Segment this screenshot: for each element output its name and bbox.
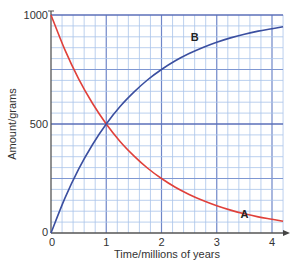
y-axis-label: Amount/grams xyxy=(6,88,18,160)
x-axis-label: Time/millions of years xyxy=(114,248,220,260)
y-tick-label: 1000 xyxy=(24,9,48,21)
series-label-a: A xyxy=(240,208,248,220)
series-label-b: B xyxy=(191,31,199,43)
y-tick-label: 0 xyxy=(42,226,48,238)
decay-chart: 0123405001000Time/millions of yearsAmoun… xyxy=(0,0,291,268)
grid xyxy=(51,15,283,233)
x-tick-label: 1 xyxy=(103,236,109,248)
x-tick-label: 0 xyxy=(49,236,55,248)
y-tick-label: 500 xyxy=(30,118,48,130)
x-tick-label: 4 xyxy=(269,236,275,248)
series-line-a xyxy=(51,15,283,221)
x-axis-arrow-icon xyxy=(283,230,290,236)
series-line-b xyxy=(51,27,283,233)
x-tick-label: 3 xyxy=(214,236,220,248)
x-tick-label: 2 xyxy=(158,236,164,248)
